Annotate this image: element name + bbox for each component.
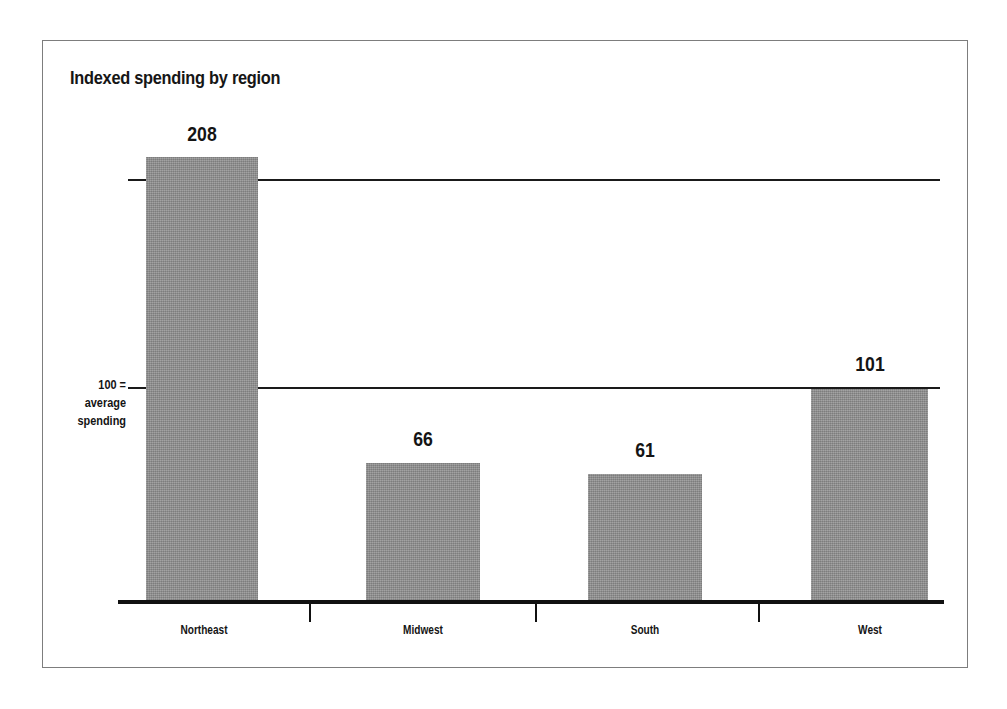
- category-label-west: West: [826, 623, 913, 637]
- bar-value-midwest: 66: [381, 427, 465, 451]
- category-label-northeast: Northeast: [160, 623, 247, 637]
- bar-value-south: 61: [603, 438, 687, 462]
- y-axis-annotation: 100 = average spending: [46, 376, 126, 430]
- bar-midwest[interactable]: [366, 463, 480, 603]
- y-annotation-line-2: average: [59, 394, 126, 412]
- category-label-south: South: [601, 623, 688, 637]
- y-annotation-line-1: 100 =: [59, 376, 126, 394]
- bar-value-west: 101: [828, 352, 912, 376]
- x-axis-line: [118, 600, 944, 604]
- bar-northeast[interactable]: [146, 157, 258, 603]
- plot-area: 208 66 61 101 Northeast Midwest South We…: [0, 0, 1007, 709]
- bar-south[interactable]: [588, 474, 702, 603]
- category-label-midwest: Midwest: [379, 623, 466, 637]
- x-tick-separator-2: [535, 604, 537, 622]
- y-annotation-line-3: spending: [59, 412, 126, 430]
- bar-west[interactable]: [811, 389, 928, 603]
- x-tick-separator-3: [758, 604, 760, 622]
- chart-figure: Indexed spending by region 208 66 61 101…: [0, 0, 1007, 709]
- x-tick-separator-1: [309, 604, 311, 622]
- bar-value-northeast: 208: [160, 122, 244, 146]
